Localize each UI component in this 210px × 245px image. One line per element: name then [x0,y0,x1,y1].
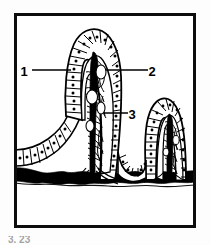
caption-clipped: 3. 23 [8,236,128,245]
villi-diagram: 1 2 3 [0,0,210,245]
label-1: 1 [20,64,27,79]
label-3: 3 [128,107,135,122]
label-2: 2 [148,64,155,79]
figure-root: 1 2 3 3. 23 [0,0,210,245]
caption-text: 3. 23 [8,236,30,245]
